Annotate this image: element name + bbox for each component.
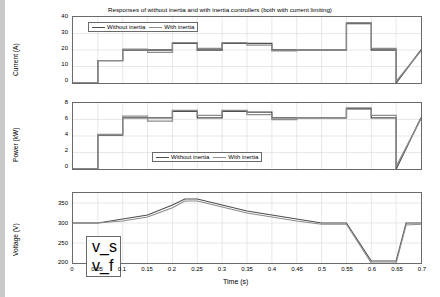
power-axis-label: Power (kW) (12, 128, 19, 162)
current-ytick-20: 20 (48, 45, 68, 51)
power-legend-item-without: Without inertia (156, 154, 209, 160)
x-tick-0.2: 0.2 (162, 266, 182, 272)
x-tick-0.25: 0.25 (187, 266, 207, 272)
power-ytick-8: 8 (48, 99, 68, 105)
current-legend-item-without: Without inertia (92, 24, 145, 30)
x-tick-0.55: 0.55 (337, 266, 357, 272)
power-ytick-2: 2 (48, 147, 68, 153)
voltage-ytick-300: 300 (44, 220, 68, 226)
x-tick-0.3: 0.3 (212, 266, 232, 272)
current-ytick-0: 0 (48, 77, 68, 83)
voltage-ytick-200: 200 (44, 259, 68, 265)
x-axis-label: Time (s) (223, 278, 248, 285)
voltage-legend-item-vs: v_s (90, 238, 117, 256)
current-ytick-30: 30 (48, 29, 68, 35)
current-ytick-10: 10 (48, 61, 68, 67)
figure-root: Responses of without inertia and with in… (0, 0, 440, 297)
current-axis-label: Current (A) (12, 43, 19, 76)
power-ytick-0: 0 (48, 163, 68, 169)
x-tick-0.1: 0.1 (112, 266, 132, 272)
power-ytick-6: 6 (48, 115, 68, 121)
voltage-plot-panel (72, 192, 422, 264)
line-swatch-icon (92, 27, 105, 28)
voltage-axis-label: Voltage (V) (12, 223, 19, 256)
x-tick-0.15: 0.15 (137, 266, 157, 272)
current-legend-label-with: With inertia (164, 24, 194, 30)
x-tick-0.7: 0.7 (412, 266, 432, 272)
power-legend-label-without: Without inertia (171, 154, 209, 160)
x-tick-0.45: 0.45 (287, 266, 307, 272)
power-legend-item-with: With inertia (213, 154, 258, 160)
line-swatch-icon (213, 157, 226, 158)
voltage-ytick-250: 250 (44, 240, 68, 246)
x-tick-0.6: 0.6 (362, 266, 382, 272)
current-legend-label-without: Without inertia (107, 24, 145, 30)
x-tick-0.35: 0.35 (237, 266, 257, 272)
power-ytick-4: 4 (48, 131, 68, 137)
left-gutter-bar (0, 0, 5, 297)
line-swatch-icon (149, 27, 162, 28)
current-legend-item-with: With inertia (149, 24, 194, 30)
voltage-legend-label-vs: v_s (92, 238, 117, 256)
voltage-plot-canvas (73, 193, 421, 263)
power-legend-label-with: With inertia (228, 154, 258, 160)
x-tick-0.05: 0.05 (87, 266, 107, 272)
x-tick-0: 0 (62, 266, 82, 272)
x-tick-0.5: 0.5 (312, 266, 332, 272)
x-tick-0.4: 0.4 (262, 266, 282, 272)
x-tick-0.65: 0.65 (387, 266, 407, 272)
line-swatch-icon (156, 157, 169, 158)
current-ytick-40: 40 (48, 13, 68, 19)
figure-title: Responses of without inertia and with in… (0, 6, 440, 13)
power-legend: Without inertia With inertia (152, 152, 262, 162)
current-legend: Without inertia With inertia (88, 22, 198, 32)
voltage-ytick-350: 350 (44, 200, 68, 206)
